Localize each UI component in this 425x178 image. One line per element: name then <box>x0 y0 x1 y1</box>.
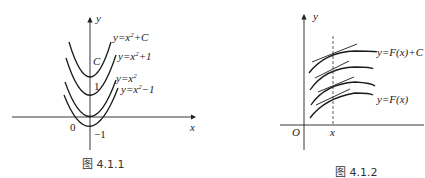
curve-label-f-plus-c: y=F(x)+C <box>376 46 424 59</box>
tangent-line-2 <box>315 61 349 78</box>
parabola-x2-plus-1 <box>66 55 116 95</box>
y-axis-label-2: y <box>312 10 318 22</box>
figure-caption-2: 图 4.1.2 <box>335 166 378 178</box>
curve-label-f: y=F(x) <box>376 93 409 106</box>
x-axis-label: x <box>189 121 195 133</box>
origin-label: 0 <box>70 121 76 133</box>
svg-text:y=x2+1: y=x2+1 <box>117 50 152 62</box>
x-marker-label: x <box>329 126 335 138</box>
curve-label-x2-minus-1: y=x2−1 <box>120 83 155 95</box>
svg-text:y=x2−1: y=x2−1 <box>120 83 155 95</box>
parabola-x2 <box>65 80 116 117</box>
figure-canvas: y x 0 C 1 −1 y=x2+C y=x2+1 y=x2 y=x2−1 图… <box>0 0 425 178</box>
y-axis-label: y <box>95 12 101 24</box>
curve-label-x2-plus-1: y=x2+1 <box>117 50 152 62</box>
curve-f <box>310 93 373 118</box>
figure-parabolas: y x 0 C 1 −1 y=x2+C y=x2+1 y=x2 y=x2−1 图… <box>12 12 195 171</box>
svg-text:y=x2+C: y=x2+C <box>112 31 149 43</box>
tick-label-one: 1 <box>94 80 100 92</box>
figure-caption-1: 图 4.1.1 <box>82 158 125 171</box>
tangent-line-1 <box>312 44 357 62</box>
curve-f-plus-c <box>309 51 377 73</box>
curve-label-x2-plus-c: y=x2+C <box>112 31 149 43</box>
tick-label-minus-one: −1 <box>94 128 106 140</box>
figure-antiderivatives: y O x y=F(x)+C y=F(x) 图 4.1.2 <box>280 10 424 178</box>
tick-label-c: C <box>93 55 101 67</box>
origin-label-2: O <box>292 126 300 138</box>
curve-f-plus-c2 <box>310 67 373 90</box>
